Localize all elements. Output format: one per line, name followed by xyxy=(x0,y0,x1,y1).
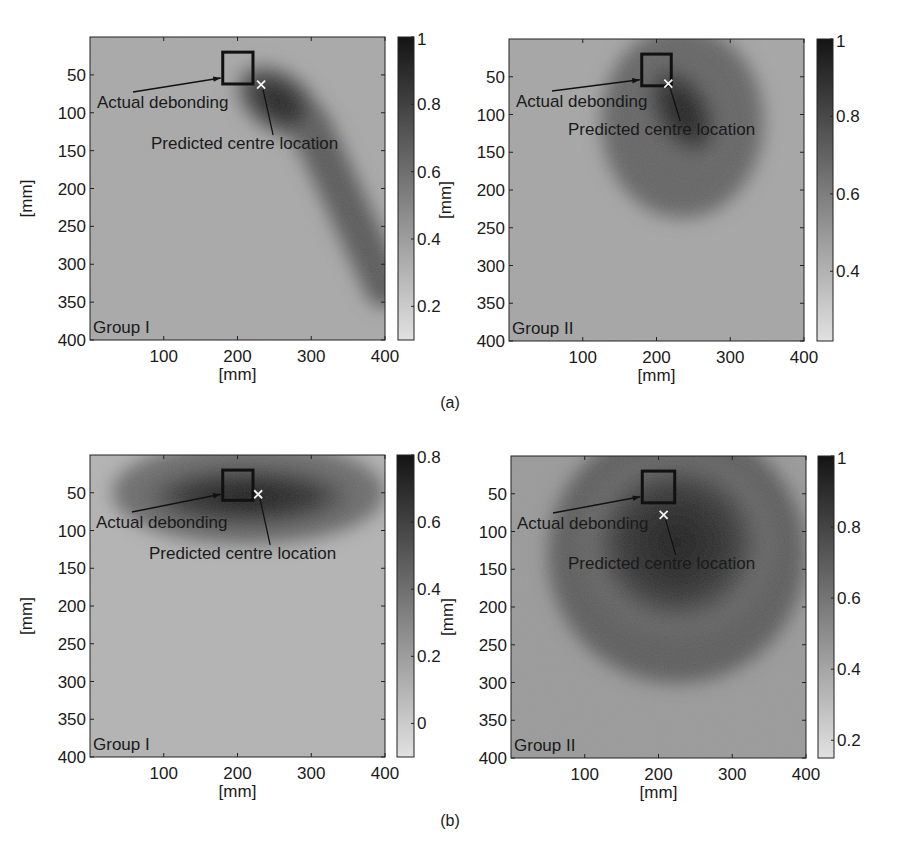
heatmap-noise xyxy=(509,39,804,341)
x-tick-label: 300 xyxy=(297,764,325,783)
y-axis-label: [mm] xyxy=(17,597,36,635)
y-tick-label: 350 xyxy=(479,711,507,730)
y-tick-label: 250 xyxy=(58,635,86,654)
y-tick-label: 50 xyxy=(486,68,505,87)
annotation-predicted-centre: Predicted centre location xyxy=(568,120,755,139)
y-tick-label: 300 xyxy=(58,255,86,274)
x-tick-label: 400 xyxy=(792,765,820,784)
y-tick-label: 50 xyxy=(488,485,507,504)
y-tick-label: 150 xyxy=(479,560,507,579)
heatmap-noise xyxy=(511,456,806,758)
y-tick-label: 100 xyxy=(479,523,507,542)
colorbar-tick-label: 0.8 xyxy=(417,95,441,114)
y-axis-label: [mm] xyxy=(17,180,36,218)
y-tick-label: 50 xyxy=(67,66,86,85)
y-tick-label: 100 xyxy=(58,104,86,123)
x-axis-label: [mm] xyxy=(219,782,257,801)
y-axis-label: [mm] xyxy=(438,598,457,636)
colorbar-tick-label: 0.8 xyxy=(836,107,860,126)
x-tick-label: 100 xyxy=(150,764,178,783)
colorbar xyxy=(817,39,833,341)
y-tick-label: 350 xyxy=(58,710,86,729)
heatmap-panel: Actual debondingPredicted centre locatio… xyxy=(438,425,861,802)
annotation-predicted-centre: Predicted centre location xyxy=(568,554,755,573)
y-tick-label: 400 xyxy=(477,332,505,351)
x-tick-label: 200 xyxy=(223,347,251,366)
colorbar-tick-label: 1 xyxy=(417,30,426,49)
heatmap-field xyxy=(511,425,806,758)
x-axis-label: [mm] xyxy=(640,783,678,802)
colorbar-tick-label: 1 xyxy=(836,32,845,51)
heatmap-panel: Actual debondingPredicted centre locatio… xyxy=(436,26,860,385)
x-tick-label: 200 xyxy=(223,764,251,783)
y-tick-label: 200 xyxy=(58,180,86,199)
y-tick-label: 300 xyxy=(477,257,505,276)
colorbar-tick-label: 0.6 xyxy=(836,185,860,204)
colorbar-tick-label: 0.2 xyxy=(837,731,861,750)
colorbar-tick-label: 0.6 xyxy=(837,589,861,608)
x-tick-label: 300 xyxy=(718,765,746,784)
y-tick-label: 150 xyxy=(477,143,505,162)
panel-label-b: (b) xyxy=(440,812,460,829)
x-tick-label: 100 xyxy=(150,347,178,366)
x-tick-label: 400 xyxy=(371,347,399,366)
x-tick-label: 400 xyxy=(371,764,399,783)
heatmap-noise xyxy=(90,37,385,340)
x-tick-label: 200 xyxy=(644,765,672,784)
annotation-actual-debonding: Actual debonding xyxy=(96,513,227,532)
y-tick-label: 250 xyxy=(58,217,86,236)
heatmap-field xyxy=(90,441,385,757)
y-tick-label: 200 xyxy=(477,181,505,200)
x-axis-label: [mm] xyxy=(638,366,676,385)
y-tick-label: 250 xyxy=(477,219,505,238)
colorbar-tick-label: 0.8 xyxy=(417,448,441,467)
heatmap-field xyxy=(509,26,804,341)
x-tick-label: 100 xyxy=(571,765,599,784)
annotation-predicted-centre: Predicted centre location xyxy=(149,544,336,563)
colorbar xyxy=(397,455,414,757)
colorbar-tick-label: 0 xyxy=(417,714,426,733)
annotation-actual-debonding: Actual debonding xyxy=(517,514,648,533)
heatmap-panel: Actual debondingPredicted centre locatio… xyxy=(17,441,441,801)
y-tick-label: 150 xyxy=(58,559,86,578)
colorbar-tick-label: 0.2 xyxy=(417,297,441,316)
y-tick-label: 350 xyxy=(58,293,86,312)
y-tick-label: 400 xyxy=(58,331,86,350)
y-tick-label: 200 xyxy=(58,597,86,616)
colorbar-tick-label: 0.2 xyxy=(417,647,441,666)
colorbar-tick-label: 0.4 xyxy=(837,660,861,679)
y-tick-label: 100 xyxy=(58,522,86,541)
annotation-predicted-centre: Predicted centre location xyxy=(151,134,338,153)
y-tick-label: 50 xyxy=(67,484,86,503)
y-axis-label: [mm] xyxy=(436,181,455,219)
y-tick-label: 250 xyxy=(479,636,507,655)
colorbar-tick-label: 0.6 xyxy=(417,513,441,532)
colorbar xyxy=(398,37,414,340)
y-tick-label: 100 xyxy=(477,106,505,125)
x-axis-label: [mm] xyxy=(219,365,257,384)
group-label: Group I xyxy=(93,318,150,337)
x-tick-label: 300 xyxy=(297,347,325,366)
x-tick-label: 100 xyxy=(569,348,597,367)
y-tick-label: 300 xyxy=(479,674,507,693)
colorbar xyxy=(818,456,834,758)
group-label: Group II xyxy=(512,319,573,338)
group-label: Group II xyxy=(514,736,575,755)
panel-label-a: (a) xyxy=(440,394,460,411)
heatmap-panel: Actual debondingPredicted centre locatio… xyxy=(17,30,441,384)
x-tick-label: 400 xyxy=(790,348,818,367)
colorbar-tick-label: 1 xyxy=(837,449,846,468)
y-tick-label: 350 xyxy=(477,294,505,313)
heatmap-field xyxy=(90,37,385,340)
colorbar-tick-label: 0.4 xyxy=(417,230,441,249)
y-tick-label: 400 xyxy=(58,748,86,767)
annotation-actual-debonding: Actual debonding xyxy=(516,92,647,111)
figure: Actual debondingPredicted centre locatio… xyxy=(0,0,900,859)
colorbar-tick-label: 0.6 xyxy=(417,163,441,182)
colorbar-tick-label: 0.8 xyxy=(837,518,861,537)
y-tick-label: 150 xyxy=(58,142,86,161)
colorbar-tick-label: 0.4 xyxy=(836,262,860,281)
x-tick-label: 200 xyxy=(642,348,670,367)
y-tick-label: 400 xyxy=(479,749,507,768)
annotation-actual-debonding: Actual debonding xyxy=(97,93,228,112)
